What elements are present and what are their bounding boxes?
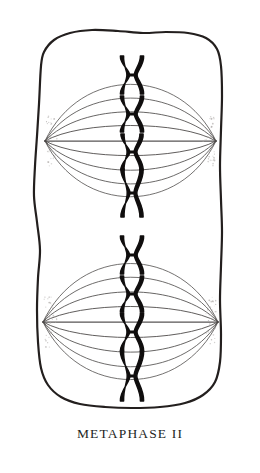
pole-stipple-dot (208, 299, 210, 301)
centromere (129, 113, 135, 116)
pole-stipple-dot (51, 142, 52, 143)
pole-stipple-dot (211, 118, 213, 120)
pole-stipple-dot (212, 163, 214, 165)
pole-stipple-dot (212, 310, 213, 311)
pole-stipple-dot (207, 161, 209, 163)
pole-stipple-dot (54, 156, 55, 157)
pole-stipple-dot (49, 150, 50, 151)
pole-stipple-dot (47, 139, 49, 141)
centromere (129, 74, 135, 77)
pole-stipple-dot (46, 335, 47, 336)
pole-stipple-dot (50, 158, 51, 159)
pole-stipple-dot (211, 126, 213, 128)
pole-stipple-dot (209, 118, 210, 119)
pole-stipple-dot (214, 342, 215, 343)
pole-stipple-dot (48, 122, 49, 123)
pole-stipple-dot (50, 124, 51, 125)
pole-stipple-dot (51, 312, 52, 313)
centromere (129, 254, 135, 257)
pole-stipple-dot (210, 160, 212, 162)
pole-stipple-dot (48, 115, 50, 117)
pole-stipple-dot (52, 319, 53, 320)
pole-stipple-dot (215, 301, 216, 302)
pole-stipple-dot (53, 158, 54, 159)
pole-stipple-dot (49, 347, 50, 348)
meiosis-diagram-canvas (0, 0, 260, 473)
pole-stipple-dot (202, 135, 204, 137)
pole-stipple-dot (215, 304, 216, 305)
pole-stipple-dot (49, 165, 50, 166)
pole-stipple-dot (207, 331, 209, 333)
pole-stipple-dot (204, 139, 205, 140)
pole-stipple-dot (48, 337, 49, 338)
pole-stipple-dot (215, 328, 216, 329)
pole-stipple-dot (207, 309, 209, 311)
pole-stipple-dot (213, 334, 215, 336)
pole-stipple-dot (54, 149, 56, 151)
pole-stipple-dot (43, 298, 45, 300)
pole-stipple-dot (210, 136, 212, 138)
pole-stipple-dot (47, 342, 48, 343)
pole-stipple-dot (55, 316, 56, 317)
pole-stipple-dot (49, 316, 50, 317)
pole-stipple-dot (50, 118, 51, 119)
pole-stipple-dot (45, 339, 46, 340)
pole-stipple-dot (50, 332, 52, 334)
pole-stipple-dot (56, 318, 57, 319)
pole-stipple-dot (212, 318, 213, 319)
pole-stipple-dot (47, 123, 48, 124)
pole-stipple-dot (211, 149, 212, 150)
pole-stipple-dot (51, 150, 53, 152)
centromere (129, 151, 135, 154)
pole-stipple-dot (202, 140, 204, 142)
pole-stipple-dot (50, 148, 51, 149)
pole-stipple-dot (47, 298, 48, 299)
pole-stipple-dot (209, 323, 211, 325)
pole-stipple-dot (53, 118, 55, 120)
pole-stipple-dot (210, 306, 211, 307)
pole-stipple-dot (53, 322, 54, 323)
pole-stipple-dot (46, 121, 47, 122)
pole-stipple-dot (212, 297, 213, 298)
figure-root: METAPHASE II (0, 0, 260, 473)
pole-stipple-dot (214, 306, 215, 307)
pole-stipple-dot (213, 117, 215, 119)
pole-stipple-dot (212, 123, 214, 125)
pole-stipple-dot (49, 130, 50, 131)
pole-stipple-dot (53, 157, 54, 158)
pole-stipple-dot (215, 321, 217, 323)
pole-stipple-dot (48, 296, 50, 298)
pole-stipple-dot (51, 304, 52, 305)
pole-stipple-dot (208, 156, 210, 158)
pole-stipple-dot (45, 346, 47, 348)
pole-stipple-dot (45, 340, 47, 342)
pole-stipple-dot (51, 337, 52, 338)
pole-stipple-dot (213, 314, 215, 316)
pole-stipple-dot (214, 151, 215, 152)
pole-stipple-dot (208, 152, 209, 153)
centromere (129, 331, 135, 334)
pole-stipple-dot (212, 156, 213, 157)
pole-stipple-dot (215, 311, 216, 312)
pole-stipple-dot (212, 329, 213, 330)
pole-stipple-dot (52, 315, 54, 317)
pole-stipple-dot (50, 296, 51, 297)
centromere (129, 192, 135, 195)
pole-stipple-dot (45, 306, 46, 307)
pole-stipple-dot (212, 300, 214, 302)
pole-stipple-dot (209, 314, 210, 315)
pole-stipple-dot (214, 338, 215, 339)
pole-stipple-dot (52, 308, 54, 310)
pole-stipple-dot (210, 116, 212, 118)
pole-stipple-dot (211, 312, 212, 313)
pole-stipple-dot (210, 131, 212, 133)
pole-stipple-dot (47, 151, 48, 152)
pole-stipple-dot (47, 161, 48, 162)
pole-stipple-dot (205, 332, 207, 334)
pole-stipple-dot (213, 159, 215, 161)
pole-stipple-dot (56, 138, 57, 139)
pole-stipple-dot (212, 142, 213, 143)
pole-stipple-dot (212, 165, 214, 167)
pole-stipple-dot (50, 302, 51, 303)
cell-membrane-outline (34, 30, 222, 408)
